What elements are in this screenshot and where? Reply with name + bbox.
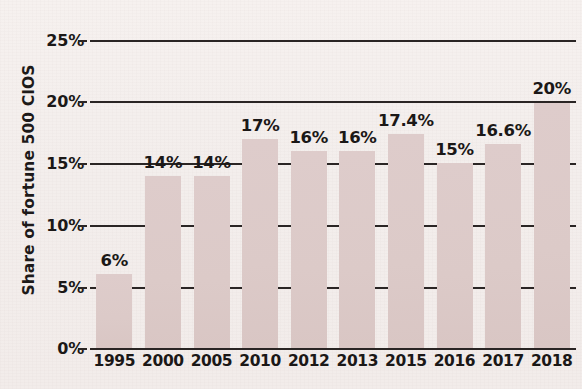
y-tick-label: 10% (32, 216, 84, 235)
bar-value-label: 6% (86, 251, 143, 270)
y-tick-label: 15% (32, 154, 84, 173)
x-axis-baseline (90, 348, 576, 350)
tick-stub-10 (78, 225, 87, 227)
tick-stub-15 (78, 163, 87, 165)
plot-area: 6%199514%200014%200517%201016%201216%201… (90, 0, 576, 389)
tick-stub-25 (78, 40, 87, 42)
bar (534, 102, 570, 348)
y-tick-label: 20% (32, 92, 84, 111)
gridline-25 (90, 40, 576, 42)
bar-value-label: 17.4% (378, 111, 435, 130)
bar (485, 144, 521, 349)
bar (339, 151, 375, 348)
x-tick-label: 2013 (330, 352, 385, 370)
x-tick-label: 2017 (476, 352, 531, 370)
x-tick-label: 2000 (136, 352, 191, 370)
y-tick-label: 5% (32, 278, 84, 297)
tick-stub-20 (78, 101, 87, 103)
x-tick-label: 2015 (379, 352, 434, 370)
y-tick-label: 25% (32, 31, 84, 50)
bar (291, 151, 327, 348)
bars-layer (90, 0, 576, 389)
bar (194, 176, 230, 349)
bar-value-label: 16% (329, 128, 386, 147)
bar (242, 139, 278, 348)
x-tick-label: 1995 (87, 352, 142, 370)
tick-stub-5 (78, 287, 87, 289)
x-tick-label: 2018 (524, 352, 579, 370)
bar (388, 134, 424, 348)
bar-value-label: 16.6% (475, 121, 532, 140)
bar-value-label: 15% (426, 140, 483, 159)
y-axis-tick-labels: 25% 20% 15% 10% 5% 0% (32, 0, 84, 389)
bar-value-label: 20% (523, 79, 580, 98)
x-tick-label: 2010 (233, 352, 288, 370)
bar (437, 163, 473, 348)
x-tick-label: 2005 (184, 352, 239, 370)
y-tick-label: 0% (32, 339, 84, 358)
bar-chart: Share of fortune 500 CIOS 25% 20% 15% 10… (0, 0, 582, 389)
bar-value-label: 14% (183, 153, 240, 172)
bar (96, 274, 132, 348)
tick-stub-0 (78, 348, 87, 350)
x-tick-label: 2016 (427, 352, 482, 370)
bar (145, 176, 181, 349)
gridline-20 (90, 101, 576, 103)
x-tick-label: 2012 (281, 352, 336, 370)
